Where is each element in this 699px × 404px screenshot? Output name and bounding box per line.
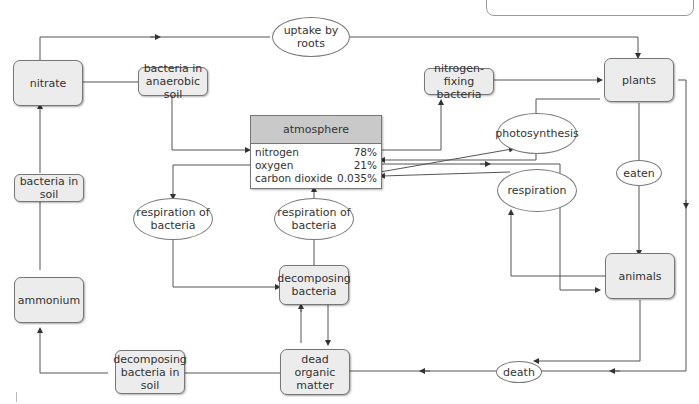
atmosphere-row-nitrogen: nitrogen 78% xyxy=(251,146,381,159)
gas-percent: 21% xyxy=(354,159,377,172)
node-death: death xyxy=(496,361,542,383)
margin-mark xyxy=(16,392,17,402)
node-eaten: eaten xyxy=(616,160,662,186)
atmosphere-row-oxygen: oxygen 21% xyxy=(251,159,381,172)
connector-lines xyxy=(0,0,699,404)
node-bacteria-anaerobic-soil: bacteria in anaerobic soil xyxy=(138,67,208,96)
atmosphere-row-carbon-dioxide: carbon dioxide 0.035% xyxy=(251,172,381,185)
gas-percent: 0.035% xyxy=(337,172,377,185)
gas-name: oxygen xyxy=(255,159,293,172)
gas-name: carbon dioxide xyxy=(255,172,333,185)
atmosphere-title: atmosphere xyxy=(251,116,381,144)
node-respiration-of-bacteria-left: respiration of bacteria xyxy=(133,198,213,240)
gas-percent: 78% xyxy=(354,146,377,159)
gas-name: nitrogen xyxy=(255,146,299,159)
node-uptake-by-roots: uptake by roots xyxy=(272,17,350,57)
node-nitrate: nitrate xyxy=(13,60,83,106)
node-respiration: respiration xyxy=(497,169,577,212)
node-plants: plants xyxy=(604,58,674,102)
node-nitrogen-fixing-bacteria: nitrogen-fixing bacteria xyxy=(424,68,494,95)
node-respiration-of-bacteria-right: respiration of bacteria xyxy=(274,198,354,240)
node-ammonium: ammonium xyxy=(14,277,84,323)
atmosphere-table: atmosphere nitrogen 78% oxygen 21% carbo… xyxy=(250,115,382,189)
node-decomposing-bacteria-in-soil: decomposing bacteria in soil xyxy=(115,350,185,394)
node-photosynthesis: photosynthesis xyxy=(497,113,577,154)
node-decomposing-bacteria: decomposing bacteria xyxy=(279,265,349,305)
node-dead-organic-matter: dead organic matter xyxy=(280,349,350,395)
node-animals: animals xyxy=(605,253,675,299)
node-bacteria-in-soil: bacteria in soil xyxy=(14,174,84,202)
